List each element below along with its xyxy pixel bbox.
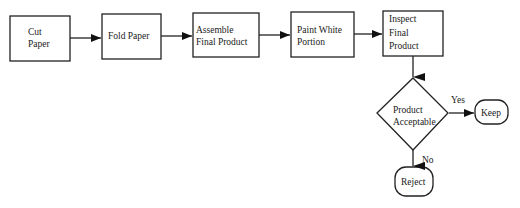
edge-label-yes: Yes (451, 94, 465, 106)
label-paint: Paint White Portion (297, 24, 342, 48)
edge-label-no: No (422, 154, 434, 166)
label-decision: Product Acceptable (393, 104, 436, 128)
label-cut-paper: Cut Paper (28, 26, 50, 50)
label-inspect: Inspect Final Product (389, 13, 419, 54)
label-assemble: Assemble Final Product (196, 24, 247, 48)
label-reject: Reject (401, 176, 425, 188)
label-keep: Keep (481, 107, 501, 119)
label-fold-paper: Fold Paper (108, 30, 149, 42)
flowchart-canvas (0, 0, 520, 208)
